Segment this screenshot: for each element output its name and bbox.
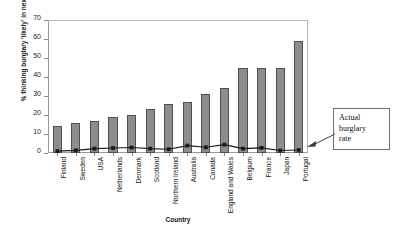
line-marker [74, 148, 78, 152]
y-axis-tick-label: 0 [37, 147, 41, 154]
x-axis-tick-mark [187, 153, 188, 156]
x-axis-tick-label: Denmark [135, 157, 142, 183]
line-marker [278, 149, 282, 153]
x-axis-tick-label: Scotland [153, 157, 160, 182]
y-axis-tick-label: 30 [33, 90, 41, 97]
x-axis-tick-label: Finland [60, 157, 67, 178]
x-axis-tick-mark [169, 153, 170, 156]
x-axis-tick-mark [243, 153, 244, 156]
line-marker [260, 146, 264, 150]
line-marker [185, 144, 189, 148]
y-axis-tick-label: 10 [33, 128, 41, 135]
x-axis-tick-label: Netherlands [116, 157, 123, 192]
y-axis-tick-label: 60 [33, 33, 41, 40]
x-axis-tick-mark [262, 153, 263, 156]
x-axis-tick-mark [57, 153, 58, 156]
x-axis-tick-label: Sweden [79, 157, 86, 181]
x-axis-tick-mark [150, 153, 151, 156]
annotation-line-3: rate [339, 134, 389, 145]
x-axis-tick-label: France [265, 157, 272, 177]
x-axis-tick-label: Portugal [302, 157, 309, 181]
line-marker [204, 145, 208, 149]
line-marker [297, 148, 301, 152]
x-axis-tick-mark [94, 153, 95, 156]
actual-burglary-rate-line-series [48, 20, 308, 153]
x-axis-tick-mark [113, 153, 114, 156]
y-axis-tick-label: 40 [33, 71, 41, 78]
x-axis-title: Country [48, 216, 308, 223]
annotation-arrow-icon [306, 132, 336, 150]
x-axis-tick-mark [206, 153, 207, 156]
x-axis-tick-label: Australia [190, 157, 197, 182]
x-axis-tick-label: Canada [209, 157, 216, 180]
x-axis-tick-label: Japan [283, 157, 290, 175]
x-axis-tick-label: Northern Ireland [172, 157, 179, 204]
annotation-line-1: Actual [339, 113, 389, 124]
x-axis-tick-mark [224, 153, 225, 156]
line-marker [223, 143, 227, 147]
line-marker [148, 147, 152, 151]
burglary-perception-chart: 010203040506070 % thinking burglary 'lik… [0, 0, 404, 238]
x-axis-tick-mark [299, 153, 300, 156]
line-marker [93, 147, 97, 151]
x-axis-tick-label: USA [97, 157, 104, 170]
line-marker [241, 147, 245, 151]
line-marker [130, 146, 134, 150]
y-axis-tick-label: 70 [33, 14, 41, 21]
plot-area [48, 20, 308, 153]
x-axis-tick-mark [280, 153, 281, 156]
x-axis-tick-mark [76, 153, 77, 156]
x-axis-tick-mark [132, 153, 133, 156]
line-marker [167, 147, 171, 151]
y-axis-tick-label: 20 [33, 109, 41, 116]
line-marker [111, 146, 115, 150]
y-axis-tick-label: 50 [33, 52, 41, 59]
annotation-line-2: burglary [339, 124, 389, 135]
x-axis-tick-label: England and Wales [227, 157, 234, 213]
y-axis-title: % thinking burglary 'likely' in next yea… [20, 0, 27, 117]
annotation-actual-burglary-rate: Actual burglary rate [333, 108, 390, 150]
y-axis-tick-mark [44, 153, 48, 154]
x-axis-tick-label: Belgium [246, 157, 253, 180]
